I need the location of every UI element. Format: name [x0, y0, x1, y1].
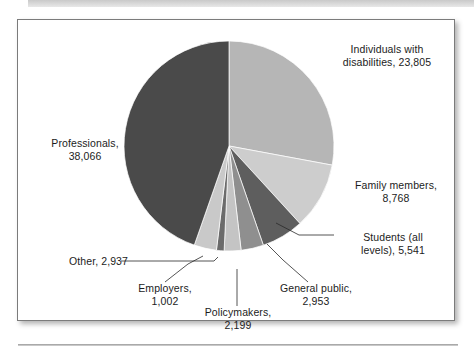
top-divider-rule [28, 0, 474, 7]
slice-label-family-members: Family members, 8,768 [336, 179, 456, 205]
pie-chart-plot-area: Individuals with disabilities, 23,805 Fa… [18, 20, 454, 320]
slice-label-professionals: Professionals, 38,066 [27, 137, 143, 163]
slice-label-employers: Employers, 1,002 [118, 282, 212, 308]
slice-label-policymakers: Policymakers, 2,199 [186, 306, 290, 332]
slice-label-individuals-with-disabilities: Individuals with disabilities, 23,805 [319, 43, 455, 69]
slice-label-other: Other, 2,937 [69, 255, 161, 268]
bottom-divider-rule [18, 344, 458, 346]
leader-line-employers [165, 256, 203, 282]
chart-frame: Individuals with disabilities, 23,805 Fa… [17, 19, 455, 321]
figure-root: Individuals with disabilities, 23,805 Fa… [0, 0, 474, 353]
slice-label-general-public: General public, 2,953 [263, 282, 369, 308]
slice-label-students-all-levels: Students (all levels), 5,541 [334, 231, 452, 257]
leader-line-general-public [267, 244, 308, 282]
pie-slice-group [124, 41, 334, 251]
